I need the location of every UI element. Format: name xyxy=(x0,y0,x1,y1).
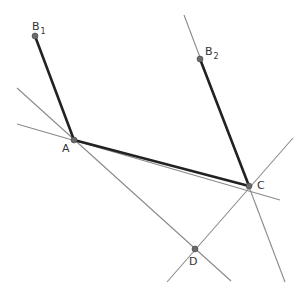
line-through-A-and-D xyxy=(17,88,231,281)
point-c[interactable] xyxy=(246,183,252,189)
thin-construction-lines xyxy=(17,15,293,282)
label-c: C xyxy=(257,179,265,192)
label-d: D xyxy=(189,255,197,268)
line-through-D-and-C xyxy=(167,138,293,282)
segment-b1-a xyxy=(35,36,74,140)
point-b1[interactable] xyxy=(32,33,38,39)
geometry-canvas: B1B2ACD xyxy=(0,0,304,298)
label-b2: B2 xyxy=(205,45,219,61)
point-a[interactable] xyxy=(71,137,77,143)
label-a: A xyxy=(62,142,70,155)
point-b2[interactable] xyxy=(197,56,203,62)
point-d[interactable] xyxy=(192,246,198,252)
segment-b2-c xyxy=(200,59,249,186)
point-labels: B1B2ACD xyxy=(32,20,265,268)
